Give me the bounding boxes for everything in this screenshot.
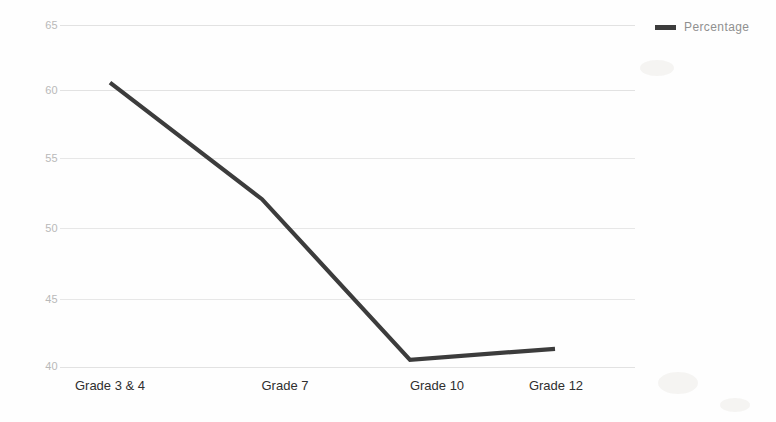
- y-tick-label-50: 50: [18, 222, 58, 234]
- y-tick-label-60: 60: [18, 84, 58, 96]
- plot-area: [60, 25, 635, 368]
- x-tick-label-grade-3-4: Grade 3 & 4: [75, 378, 145, 393]
- y-tick-label-65: 65: [18, 19, 58, 31]
- gridline-50: [60, 228, 635, 229]
- x-tick-label-grade-10: Grade 10: [410, 378, 464, 393]
- y-tick-label-55: 55: [18, 152, 58, 164]
- line-chart: 65 60 55 50 45 40 Grade 3 & 4 Grade 7 Gr…: [0, 0, 776, 422]
- scan-artifact: [640, 60, 674, 76]
- x-tick-label-grade-7: Grade 7: [262, 378, 309, 393]
- y-tick-label-40: 40: [18, 360, 58, 372]
- y-axis: 65 60 55 50 45 40: [18, 0, 58, 422]
- legend-swatch-icon: [655, 25, 676, 30]
- x-tick-label-grade-12: Grade 12: [529, 378, 583, 393]
- gridline-60: [60, 90, 635, 91]
- y-tick-label-45: 45: [18, 293, 58, 305]
- scan-artifact: [658, 372, 698, 394]
- gridline-40: [60, 367, 635, 368]
- gridline-55: [60, 158, 635, 159]
- gridline-65: [60, 25, 635, 26]
- chart-legend: Percentage: [655, 20, 749, 34]
- gridline-45: [60, 299, 635, 300]
- scan-artifact: [720, 398, 750, 412]
- legend-label-percentage: Percentage: [684, 20, 749, 34]
